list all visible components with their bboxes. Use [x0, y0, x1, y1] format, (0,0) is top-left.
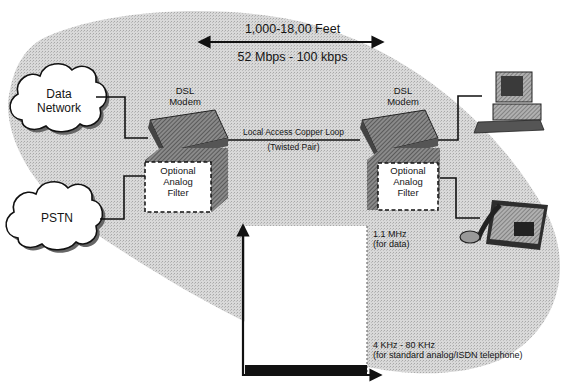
pstn-label: PSTN: [22, 212, 92, 226]
frequency-spectrum: [243, 226, 380, 376]
distance-range-label: 1,000-18,00 Feet: [205, 22, 380, 36]
twisted-pair-label: (Twisted Pair): [226, 143, 361, 153]
data-band-label: 1.1 MHz (for data): [373, 229, 410, 250]
copper-loop-label: Local Access Copper Loop: [226, 128, 361, 138]
left-filter-label: Optional Analog Filter: [145, 166, 211, 199]
right-filter-label: Optional Analog Filter: [378, 166, 438, 199]
left-modem-label: DSL Modem: [160, 86, 210, 108]
data-rate-label: 52 Mbps - 100 kbps: [205, 50, 380, 64]
data-network-label: Data Network: [24, 88, 94, 116]
computer-icon: [474, 72, 544, 133]
voice-band-label: 4 KHz - 80 KHz (for standard analog/ISDN…: [373, 340, 523, 361]
right-modem-label: DSL Modem: [378, 86, 428, 108]
